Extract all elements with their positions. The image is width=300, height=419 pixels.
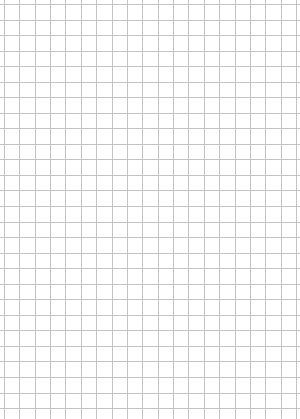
grid-line-vertical	[219, 0, 220, 419]
grid-line-horizontal	[0, 393, 300, 394]
grid-line-horizontal	[0, 346, 300, 347]
grid-line-horizontal	[0, 190, 300, 191]
grid-line-horizontal	[0, 66, 300, 67]
grid-line-horizontal	[0, 330, 300, 331]
grid-line-horizontal	[0, 377, 300, 378]
grid-line-vertical	[250, 0, 251, 419]
grid-line-horizontal	[0, 408, 300, 409]
grid-line-vertical	[96, 0, 97, 419]
grid-line-horizontal	[0, 222, 300, 223]
grid-line-horizontal	[0, 175, 300, 176]
grid-line-horizontal	[0, 253, 300, 254]
grid-line-vertical	[296, 0, 297, 419]
grid-line-horizontal	[0, 206, 300, 207]
grid-line-horizontal	[0, 97, 300, 98]
grid-line-horizontal	[0, 361, 300, 362]
grid-line-horizontal	[0, 299, 300, 300]
grid-line-horizontal	[0, 51, 300, 52]
grid-line-horizontal	[0, 82, 300, 83]
grid-line-horizontal	[0, 20, 300, 21]
grid-line-horizontal	[0, 128, 300, 129]
grid-line-horizontal	[0, 159, 300, 160]
grid-line-vertical	[204, 0, 205, 419]
grid-line-vertical	[81, 0, 82, 419]
grid-line-vertical	[50, 0, 51, 419]
grid-line-vertical	[19, 0, 20, 419]
grid-line-horizontal	[0, 113, 300, 114]
grid-line-vertical	[142, 0, 143, 419]
grid-line-horizontal	[0, 4, 300, 5]
grid-line-horizontal	[0, 144, 300, 145]
grid-line-vertical	[158, 0, 159, 419]
grid-line-vertical	[173, 0, 174, 419]
grid-line-vertical	[112, 0, 113, 419]
grid-line-vertical	[281, 0, 282, 419]
grid-line-vertical	[127, 0, 128, 419]
grid-line-horizontal	[0, 268, 300, 269]
grid-line-vertical	[235, 0, 236, 419]
grid-paper-sheet	[0, 0, 300, 419]
grid-line-horizontal	[0, 315, 300, 316]
grid-line-horizontal	[0, 237, 300, 238]
grid-line-vertical	[35, 0, 36, 419]
grid-line-horizontal	[0, 35, 300, 36]
grid-line-horizontal	[0, 284, 300, 285]
grid-line-vertical	[65, 0, 66, 419]
grid-line-vertical	[265, 0, 266, 419]
grid-line-vertical	[4, 0, 5, 419]
grid-line-vertical	[188, 0, 189, 419]
